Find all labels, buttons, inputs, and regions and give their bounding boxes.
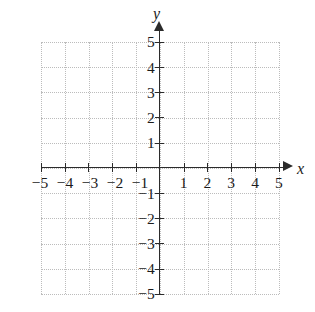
gridline-horizontal	[41, 168, 279, 169]
x-axis-tick	[88, 163, 89, 172]
y-axis-tick	[155, 294, 164, 295]
y-axis-tick-label: −2	[129, 211, 155, 227]
x-axis-line	[41, 167, 284, 168]
x-axis-tick	[255, 163, 256, 172]
x-axis-tick-label: 5	[268, 175, 290, 191]
x-axis-tick-label: −4	[54, 175, 76, 191]
coordinate-plane-figure: x y −5−4−3−2−112345−5−4−3−2−112345	[0, 0, 315, 312]
y-axis-tick-label: 3	[129, 85, 155, 101]
x-axis-tick-label: −5	[29, 175, 51, 191]
y-axis-label: y	[153, 6, 160, 22]
x-axis-tick	[231, 163, 232, 172]
x-axis-tick-label: 1	[173, 175, 195, 191]
y-axis-tick-label: 4	[129, 60, 155, 76]
y-axis-tick	[155, 42, 164, 43]
x-axis-tick-label: 3	[220, 175, 242, 191]
x-axis-arrowhead-icon	[283, 161, 293, 171]
x-axis-tick-label: −2	[104, 175, 126, 191]
x-axis-tick	[112, 163, 113, 172]
y-axis-tick	[155, 67, 164, 68]
x-axis-tick-label: −3	[79, 175, 101, 191]
x-axis-tick	[41, 163, 42, 172]
y-axis-tick	[155, 218, 164, 219]
y-axis-tick	[155, 117, 164, 118]
x-axis-tick	[65, 163, 66, 172]
y-axis-line	[159, 29, 160, 295]
grid	[41, 42, 279, 294]
y-axis-tick-label: 1	[129, 135, 155, 151]
y-axis-tick-label: −5	[129, 286, 155, 302]
y-axis-tick-label: −3	[129, 236, 155, 252]
y-axis-tick-label: 2	[129, 110, 155, 126]
y-axis-tick	[155, 143, 164, 144]
y-axis-tick	[155, 269, 164, 270]
x-axis-tick	[207, 163, 208, 172]
y-axis-tick-label: −4	[129, 261, 155, 277]
y-axis-tick-label: −1	[129, 186, 155, 202]
y-axis-tick-label: 5	[129, 34, 155, 50]
y-axis-arrowhead-icon	[154, 21, 164, 31]
x-axis-label: x	[297, 161, 304, 177]
y-axis-tick	[155, 243, 164, 244]
x-axis-tick-label: 4	[244, 175, 266, 191]
x-axis-tick	[279, 163, 280, 172]
y-axis-tick	[155, 193, 164, 194]
x-axis-tick	[136, 163, 137, 172]
x-axis-tick-label: 2	[196, 175, 218, 191]
y-axis-tick	[155, 92, 164, 93]
x-axis-tick	[184, 163, 185, 172]
